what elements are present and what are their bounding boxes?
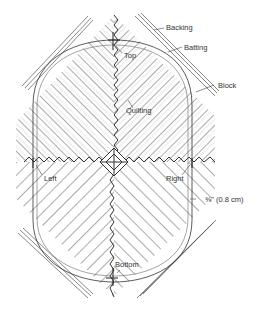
label-left: Left	[44, 174, 57, 183]
label-right: Right	[166, 174, 184, 183]
label-bottom: Bottom	[115, 260, 139, 269]
label-backing: Backing	[166, 23, 193, 32]
label-batting: Batting	[184, 43, 207, 52]
label-top: Top	[124, 51, 136, 60]
quilt-diagram: Backing Batting Block Top Quilting Left …	[0, 0, 262, 327]
label-seam-allowance: ⅜" (0.8 cm)	[205, 195, 244, 204]
label-quilting: Quilting	[126, 106, 151, 115]
label-block: Block	[218, 81, 237, 90]
